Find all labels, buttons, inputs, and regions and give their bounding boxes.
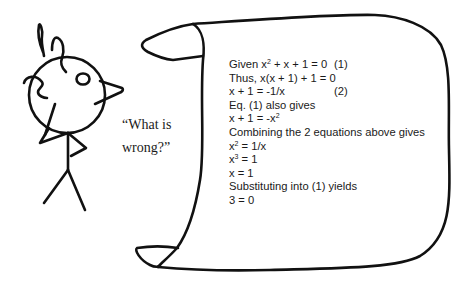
proof-line: Substituting into (1) yields [229, 180, 425, 194]
proof-line: x = 1 [229, 167, 425, 181]
proof-text: Given x2 + x + 1 = 0(1)Thus, x(x + 1) + … [229, 58, 425, 208]
proof-line: x2 = 1/x [229, 140, 425, 154]
proof-line: x + 1 = -x2 [229, 112, 425, 126]
proof-line-text: Eq. (1) also gives [229, 99, 315, 111]
proof-line-text: Given x [229, 58, 267, 70]
proof-line: 3 = 0 [229, 194, 425, 208]
proof-line-text-tail: = 1/x [239, 140, 267, 152]
proof-line: Thus, x(x + 1) + 1 = 0 [229, 72, 425, 86]
hair-strand-3 [24, 77, 47, 98]
stick-figure-right-arm [68, 133, 86, 156]
proof-line-text: x + 1 = -1/x [229, 85, 285, 97]
stick-figure-left-leg [44, 170, 68, 203]
proof-line-text: x + 1 = -x [229, 112, 276, 124]
stick-figure-right-leg [68, 170, 85, 210]
proof-line: Combining the 2 equations above gives [229, 126, 425, 140]
speech-line-2: wrong?” [122, 136, 171, 159]
proof-line-text: x = 1 [229, 167, 254, 179]
scroll-bottom-curl [136, 247, 178, 267]
equation-reference: (1) [334, 58, 348, 72]
stick-figure [24, 24, 123, 210]
hair-strand-2 [52, 38, 66, 72]
proof-line-text: Substituting into (1) yields [229, 180, 357, 192]
proof-line: x + 1 = -1/x(2) [229, 85, 425, 99]
stick-figure-nose [95, 81, 123, 104]
proof-line-text-tail: = 1 [239, 153, 258, 165]
proof-line-text: Combining the 2 equations above gives [229, 126, 425, 138]
proof-line-text: 3 = 0 [229, 194, 254, 206]
speech-line-1: “What is [122, 113, 171, 136]
stick-figure-eye [77, 74, 90, 85]
proof-line: x3 = 1 [229, 153, 425, 167]
speech-text: “What is wrong?” [122, 113, 171, 159]
exponent: 2 [276, 112, 280, 119]
proof-line-text-tail: + x + 1 = 0 [271, 58, 327, 70]
hair-strand-1 [38, 24, 44, 56]
scroll-top-curl [142, 24, 203, 60]
proof-line: Eq. (1) also gives [229, 99, 425, 113]
equation-reference: (2) [334, 85, 348, 99]
proof-line: Given x2 + x + 1 = 0(1) [229, 58, 425, 72]
proof-line-text: Thus, x(x + 1) + 1 = 0 [229, 72, 336, 84]
